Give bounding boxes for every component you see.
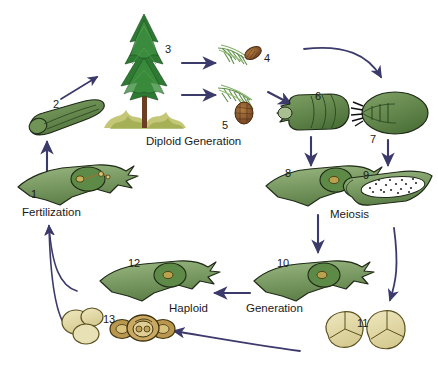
stage-number-7: 7 bbox=[370, 134, 376, 145]
arrow-2-to-3 bbox=[61, 77, 97, 99]
stage-number-9: 9 bbox=[363, 170, 369, 181]
stage-number-2: 2 bbox=[53, 99, 59, 110]
arrow-11-to-13 bbox=[174, 331, 300, 351]
arrow-4-to-7 bbox=[304, 48, 381, 77]
pollen-cone-needles bbox=[218, 45, 247, 65]
pollen-grain-with-bladders bbox=[110, 315, 175, 341]
pollen-cluster-plain bbox=[62, 308, 103, 344]
stage-number-12: 12 bbox=[128, 258, 140, 269]
arrow-5-to-6 bbox=[268, 92, 291, 104]
stage-number-5: 5 bbox=[222, 120, 228, 131]
stage-number-10: 10 bbox=[277, 258, 289, 269]
pollen-cone-body bbox=[242, 44, 263, 63]
stage-11-microspores-tetrad bbox=[326, 310, 405, 349]
diagram-canvas bbox=[0, 0, 438, 375]
stage-4-male-pollen-cone-branch bbox=[218, 44, 264, 65]
arrow-13-to-1 bbox=[49, 226, 67, 328]
stage-number-1: 1 bbox=[31, 189, 37, 200]
stage-number-4: 4 bbox=[264, 53, 270, 64]
stage-13-pollen-grain-germinating bbox=[62, 308, 175, 344]
stage-number-11: 11 bbox=[357, 318, 368, 329]
stage-10-ovule-megaspore bbox=[254, 261, 374, 301]
stage-number-6: 6 bbox=[315, 91, 321, 102]
phase-label-generation: Generation bbox=[246, 303, 303, 315]
stage-number-3: 3 bbox=[165, 44, 171, 55]
stage-number-13: 13 bbox=[103, 314, 115, 325]
stage-number-8: 8 bbox=[285, 168, 291, 179]
phase-label-diploid-generation: Diploid Generation bbox=[146, 136, 241, 148]
life-cycle-diagram: 1 2 3 4 5 6 7 8 9 10 11 12 13 Diploid Ge… bbox=[0, 0, 438, 375]
phase-label-fertilization: Fertilization bbox=[22, 207, 81, 219]
arrow-9-to-11 bbox=[390, 228, 397, 300]
stage-3-mature-conifer-tree bbox=[104, 14, 186, 129]
tree-foliage bbox=[121, 14, 167, 100]
phase-label-haploid: Haploid bbox=[169, 303, 208, 315]
stage-7-microsporangiate-scale bbox=[351, 92, 428, 134]
stage-6-ovulate-cone-scale bbox=[277, 94, 349, 130]
scale-bristles bbox=[351, 102, 363, 126]
stage-2-embryo-seedling bbox=[27, 100, 104, 136]
stage-12-female-gametophyte bbox=[100, 261, 220, 301]
phase-label-meiosis: Meiosis bbox=[330, 209, 369, 221]
